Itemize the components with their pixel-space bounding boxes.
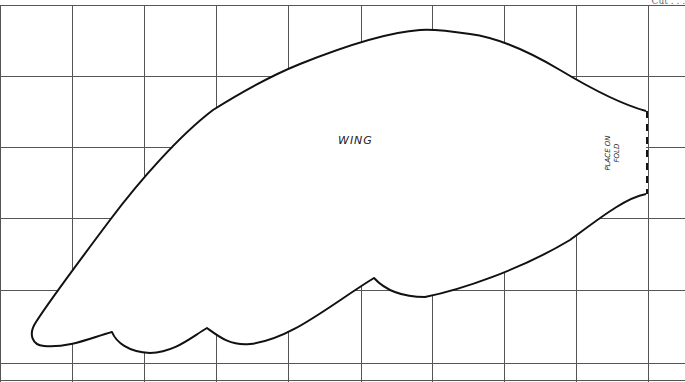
piece-label: WING xyxy=(338,134,373,147)
wing-outline xyxy=(32,30,646,353)
place-on-fold-label: PLACE ON FOLD xyxy=(604,128,622,178)
pattern-grid-and-outline xyxy=(0,0,685,382)
pattern-sheet: WING PLACE ON FOLD Cut . . . xyxy=(0,0,685,382)
corner-partial-text: Cut . . . xyxy=(652,0,685,6)
fold-label-line1: PLACE ON xyxy=(604,128,613,178)
fold-label-line2: FOLD xyxy=(613,128,622,178)
